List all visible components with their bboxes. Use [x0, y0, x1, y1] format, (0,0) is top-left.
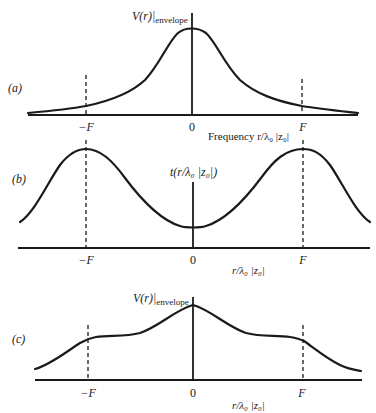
y-label-a: V(r)|envelope — [132, 9, 188, 25]
panel-c: (c) V(r)|envelope −F 0 F r/λ₀ |z₀| — [12, 291, 362, 411]
panel-label-c: (c) — [12, 332, 25, 346]
tick-pos-f-b: F — [298, 253, 307, 267]
tick-neg-f-a: −F — [78, 120, 94, 134]
x-label-c: r/λ₀ |z₀| — [232, 399, 265, 411]
tick-pos-f-c: F — [297, 386, 306, 400]
panel-label-a: (a) — [8, 81, 22, 95]
tick-zero-b: 0 — [190, 253, 196, 267]
y-label-c-main: V(r)| — [133, 291, 156, 305]
tick-zero-c: 0 — [190, 386, 196, 400]
y-label-a-main: V(r)| — [132, 9, 155, 23]
panel-label-b: (b) — [12, 172, 26, 186]
y-label-a-sub: envelope — [155, 15, 187, 25]
y-label-c: V(r)|envelope — [133, 291, 189, 307]
panel-a: (a) V(r)|envelope −F 0 F Frequency r/λ₀ … — [8, 9, 358, 142]
panel-b: (b) t(r/λ₀ |z₀|) −F 0 F r/λ₀ |z₀| — [12, 140, 370, 276]
curve-c — [35, 305, 361, 371]
curve-a — [28, 29, 358, 114]
y-label-b: t(r/λ₀ |z₀|) — [170, 165, 217, 179]
curve-b — [20, 149, 370, 228]
figure: (a) V(r)|envelope −F 0 F Frequency r/λ₀ … — [0, 0, 376, 413]
tick-zero-a: 0 — [189, 120, 195, 134]
tick-pos-f-a: F — [298, 120, 307, 134]
x-label-a: Frequency r/λ₀ |z₀| — [208, 130, 289, 142]
x-label-b: r/λ₀ |z₀| — [232, 264, 265, 276]
y-label-c-sub: envelope — [156, 297, 188, 307]
tick-neg-f-c: −F — [80, 386, 96, 400]
tick-neg-f-b: −F — [78, 253, 94, 267]
